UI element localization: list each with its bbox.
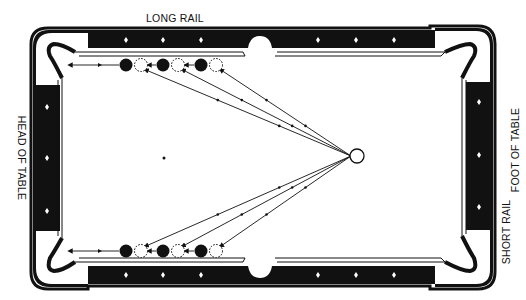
billiards-table-diagram: LONG RAIL HEAD OF TABLE FOOT OF TABLE SH… <box>0 0 526 300</box>
ghost-ball <box>172 59 185 72</box>
object-ball <box>195 245 208 258</box>
label-head-of-table: HEAD OF TABLE <box>16 116 28 200</box>
ghost-ball <box>210 59 223 72</box>
ghost-ball <box>210 245 223 258</box>
arrow-tick <box>216 99 219 102</box>
cue-ball <box>350 149 364 163</box>
object-ball <box>120 245 133 258</box>
object-ball <box>195 59 208 72</box>
label-foot-of-table: FOOT OF TABLE <box>509 108 521 192</box>
arrow-tick <box>291 125 294 128</box>
ghost-ball <box>135 245 148 258</box>
object-ball <box>157 59 170 72</box>
label-short-rail: SHORT RAIL <box>500 200 512 265</box>
ghost-ball <box>135 59 148 72</box>
ghost-ball <box>172 245 185 258</box>
arrow-tick <box>304 125 307 128</box>
arrow-tick <box>291 186 294 189</box>
arrow-tick <box>241 99 244 102</box>
arrow-tick <box>241 213 244 216</box>
arrow-tick <box>265 213 268 216</box>
head-spot <box>163 157 166 160</box>
arrow-tick <box>304 186 307 189</box>
arrow-tick <box>278 125 281 128</box>
arrow-tick <box>278 186 281 189</box>
object-ball <box>157 245 170 258</box>
object-ball <box>120 59 133 72</box>
label-long-rail: LONG RAIL <box>146 12 204 24</box>
arrow-tick <box>265 99 268 102</box>
arrow-tick <box>216 213 219 216</box>
